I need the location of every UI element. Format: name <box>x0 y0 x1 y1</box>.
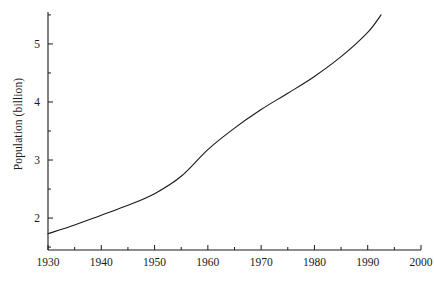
y-axis-tick-label: 5 <box>24 38 40 50</box>
y-axis-ticks <box>48 15 53 247</box>
plot-canvas <box>0 0 434 285</box>
population-curve <box>48 15 381 234</box>
y-axis-tick-label: 2 <box>24 212 40 224</box>
x-axis-tick-label: 1960 <box>196 256 219 268</box>
data-series-group <box>48 15 381 234</box>
x-axis-tick-label: 1990 <box>356 256 379 268</box>
x-axis-tick-label: 1930 <box>37 256 60 268</box>
y-axis-tick-label: 4 <box>24 96 40 108</box>
population-growth-chart: Population (billion) 1930194019501960197… <box>0 0 434 285</box>
x-axis-ticks <box>48 245 421 250</box>
x-axis-tick-label: 1950 <box>143 256 166 268</box>
x-axis-tick-label: 1980 <box>303 256 326 268</box>
x-axis-tick-label: 1970 <box>250 256 273 268</box>
x-axis-tick-label: 1940 <box>90 256 113 268</box>
x-axis-tick-label: 2000 <box>410 256 433 268</box>
y-axis-tick-label: 3 <box>24 154 40 166</box>
